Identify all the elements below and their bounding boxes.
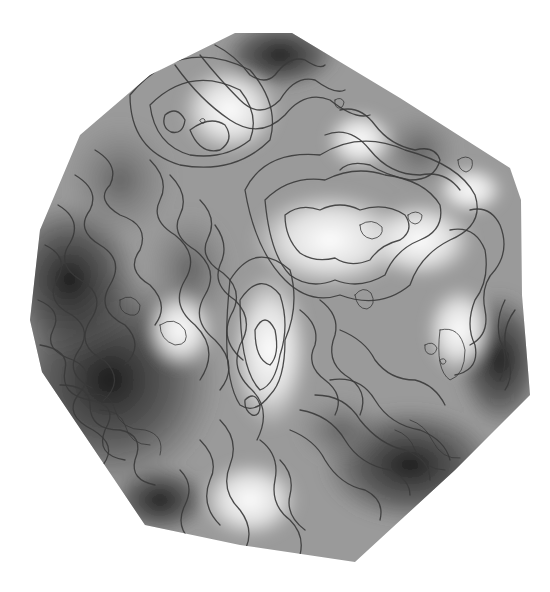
terrain xyxy=(0,0,550,592)
contour-map xyxy=(0,0,550,592)
